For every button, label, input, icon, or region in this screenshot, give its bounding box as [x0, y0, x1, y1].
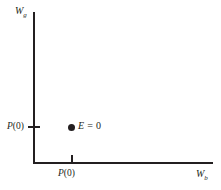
y-axis-label: Wg — [15, 5, 27, 18]
x-axis-tick-mark — [71, 155, 72, 163]
y-axis-tick-mark — [28, 126, 40, 127]
y-axis-tick-label: P(0) — [7, 120, 24, 132]
x-axis-label-subscript: b — [204, 174, 208, 182]
x-axis-tick-label: P(0) — [58, 167, 75, 179]
x-axis-label: Wb — [196, 168, 208, 181]
y-tick-label-rest: (0) — [13, 121, 24, 131]
endowment-point-label: E = 0 — [78, 120, 101, 132]
y-axis-label-subscript: g — [23, 11, 27, 19]
endowment-label-rest: = 0 — [84, 120, 101, 131]
x-tick-label-rest: (0) — [64, 168, 75, 178]
x-axis-line — [33, 162, 213, 164]
economics-endowment-chart: Wg Wb P(0) P(0) E = 0 — [0, 0, 221, 190]
y-axis-line — [33, 12, 35, 164]
endowment-point-marker — [68, 124, 75, 131]
